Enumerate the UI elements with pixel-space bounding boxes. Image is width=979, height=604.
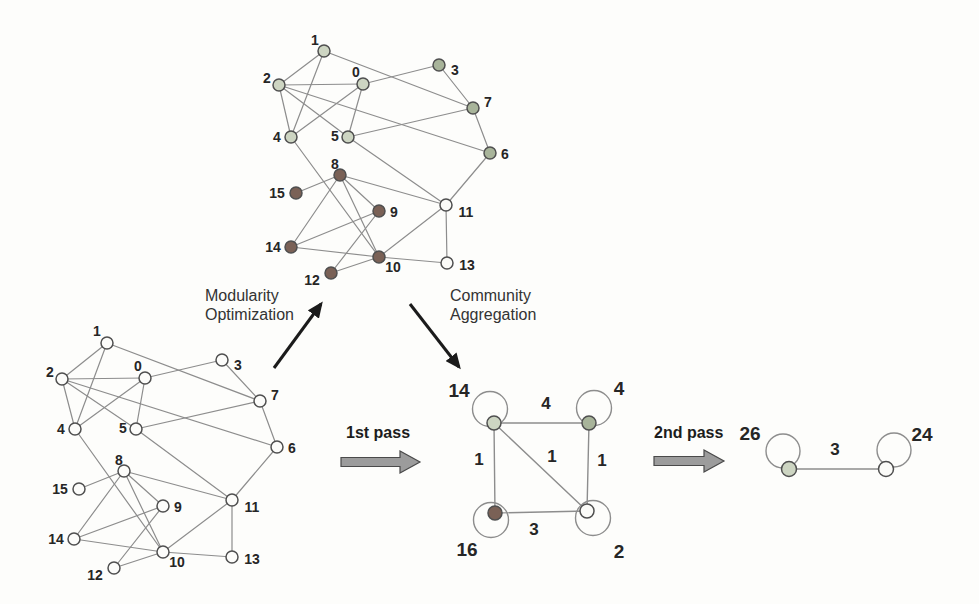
pass2-arrow <box>654 450 724 472</box>
aggregated-graph-pass1-node-c16 <box>488 506 502 520</box>
optimized-graph-node-3 <box>433 59 445 71</box>
optimized-graph-node-6 <box>484 147 496 159</box>
original-graph-edge-0-3 <box>145 360 222 378</box>
original-graph-node-11 <box>226 494 238 506</box>
original-graph-edge-6-7 <box>260 401 277 447</box>
original-graph-edge-6-11 <box>232 447 277 500</box>
original-graph: 1203745681591114101312 <box>46 323 296 583</box>
original-graph-edge-0-2 <box>62 378 145 379</box>
optimized-graph: 1203745681591114101312 <box>263 32 509 288</box>
aggregated-graph-pass2-node-c24 <box>879 462 894 477</box>
optimized-graph-edge-8-10 <box>340 175 379 257</box>
aggregated-graph-pass1-edge-c14-c16 <box>494 423 495 513</box>
original-graph-edge-10-14 <box>74 539 163 552</box>
optimized-graph-node-1 <box>318 45 330 57</box>
aggregated-graph-pass2-edge-weight-c26-c24: 3 <box>830 440 839 459</box>
optimized-graph-edge-6-7 <box>473 108 490 153</box>
aggregated-graph-pass2-selfloop-c26 <box>766 434 800 468</box>
optimized-graph-node-13 <box>441 257 453 269</box>
original-graph-node-4 <box>69 423 81 435</box>
original-graph-node-label-12: 12 <box>87 567 103 583</box>
aggregated-graph-pass1-edge-weight-c14-c16: 1 <box>474 450 483 469</box>
pass1-arrow <box>341 451 420 473</box>
optimized-graph-edge-2-6 <box>279 85 490 153</box>
optimized-graph-edge-0-2 <box>279 84 363 85</box>
original-graph-node-label-14: 14 <box>48 531 64 547</box>
modularity-optimization-label: Modularity Optimization <box>205 286 294 324</box>
original-graph-node-15 <box>73 483 85 495</box>
optimized-graph-node-7 <box>467 102 479 114</box>
aggregated-graph-pass1-edge-c4-c2 <box>587 423 589 511</box>
optimized-graph-edge-5-11 <box>348 137 446 205</box>
original-graph-edge-8-10 <box>124 471 163 552</box>
original-graph-node-label-10: 10 <box>169 554 185 570</box>
optimized-graph-node-10 <box>373 251 385 263</box>
aggregated-graph-pass1-edge-weight-c4-c2: 1 <box>597 451 606 470</box>
optimized-graph-edge-6-11 <box>446 153 490 205</box>
original-graph-node-label-5: 5 <box>119 420 127 436</box>
aggregated-graph-pass1-selfloop-c2 <box>576 501 611 536</box>
optimized-graph-edge-10-14 <box>291 247 379 257</box>
original-graph-node-9 <box>157 500 169 512</box>
aggregated-graph-pass2-node-label-c24: 24 <box>911 424 933 445</box>
original-graph-node-label-2: 2 <box>46 364 54 380</box>
aggregated-graph-pass1: 14416241113 <box>448 378 624 562</box>
optimized-graph-node-14 <box>285 241 297 253</box>
original-graph-node-label-13: 13 <box>244 551 260 567</box>
original-graph-node-label-11: 11 <box>245 499 260 515</box>
aggregated-graph-pass1-node-label-c2: 2 <box>614 541 625 562</box>
original-graph-node-label-8: 8 <box>115 452 123 468</box>
original-graph-node-label-1: 1 <box>93 323 101 339</box>
original-graph-node-5 <box>130 423 142 435</box>
original-graph-node-label-6: 6 <box>288 440 296 456</box>
optimized-graph-edge-11-13 <box>446 205 447 263</box>
optimized-graph-node-label-15: 15 <box>269 185 285 201</box>
first-pass-label: 1st pass <box>346 423 410 442</box>
aggregated-graph-pass1-edge-c16-c2 <box>495 511 587 513</box>
optimized-graph-node-label-5: 5 <box>331 128 339 144</box>
original-graph-node-2 <box>56 373 68 385</box>
original-graph-node-13 <box>226 551 238 563</box>
community-aggregation-label: Community Aggregation <box>450 286 536 324</box>
aggregated-graph-pass1-node-label-c16: 16 <box>456 539 477 560</box>
optimized-graph-node-label-10: 10 <box>385 259 401 275</box>
optimized-graph-edge-10-12 <box>331 257 379 273</box>
optimized-graph-node-11 <box>440 199 452 211</box>
optimized-graph-edge-5-7 <box>348 108 473 137</box>
louvain-method-figure: 1203745681591114101312120374568159111410… <box>0 0 979 604</box>
optimized-graph-node-label-2: 2 <box>263 70 271 86</box>
optimized-graph-node-label-9: 9 <box>390 204 398 220</box>
aggregated-graph-pass2-node-c26 <box>782 462 797 477</box>
optimized-graph-node-label-1: 1 <box>311 32 319 48</box>
original-graph-edge-5-7 <box>136 401 260 429</box>
original-graph-node-12 <box>108 562 120 574</box>
optimized-graph-node-12 <box>325 267 337 279</box>
optimized-graph-node-4 <box>285 131 297 143</box>
aggregated-graph-pass1-edge-weight-c16-c2: 3 <box>529 520 538 539</box>
aggregated-graph-pass1-node-label-c14: 14 <box>448 380 470 401</box>
original-graph-node-14 <box>68 533 80 545</box>
optimized-graph-node-label-12: 12 <box>304 272 320 288</box>
optimized-graph-node-label-4: 4 <box>273 129 281 145</box>
original-graph-node-6 <box>271 441 283 453</box>
original-graph-edge-2-6 <box>62 379 277 447</box>
aggregated-graph-pass1-edge-weight-c14-c2: 1 <box>547 447 556 466</box>
original-graph-node-10 <box>157 546 169 558</box>
optimized-graph-node-2 <box>273 79 285 91</box>
aggregated-graph-pass2: 26243 <box>739 423 933 477</box>
original-graph-node-3 <box>216 354 228 366</box>
optimized-graph-edge-8-14 <box>291 175 340 247</box>
original-graph-edge-0-4 <box>75 378 145 429</box>
optimized-graph-node-5 <box>342 131 354 143</box>
aggregated-graph-pass1-node-label-c4: 4 <box>614 378 625 399</box>
optimized-graph-node-label-6: 6 <box>501 146 509 162</box>
original-graph-node-1 <box>101 337 113 349</box>
optimized-graph-node-label-11: 11 <box>459 204 474 220</box>
aggregated-graph-pass2-node-label-c26: 26 <box>739 423 760 444</box>
original-graph-node-label-15: 15 <box>52 481 68 497</box>
aggregated-graph-pass1-node-c2 <box>580 504 594 518</box>
optimized-graph-node-15 <box>290 187 302 199</box>
optimized-graph-node-label-7: 7 <box>484 94 492 110</box>
original-graph-node-label-9: 9 <box>174 499 182 515</box>
optimized-graph-node-label-0: 0 <box>352 64 360 80</box>
